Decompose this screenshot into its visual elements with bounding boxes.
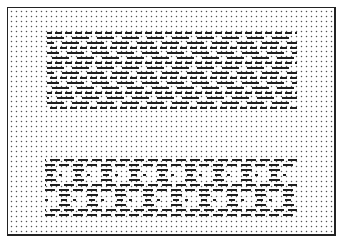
weave-pattern-drawing: [0, 0, 346, 244]
lower-block: [45, 159, 297, 216]
upper-block: [47, 32, 297, 109]
